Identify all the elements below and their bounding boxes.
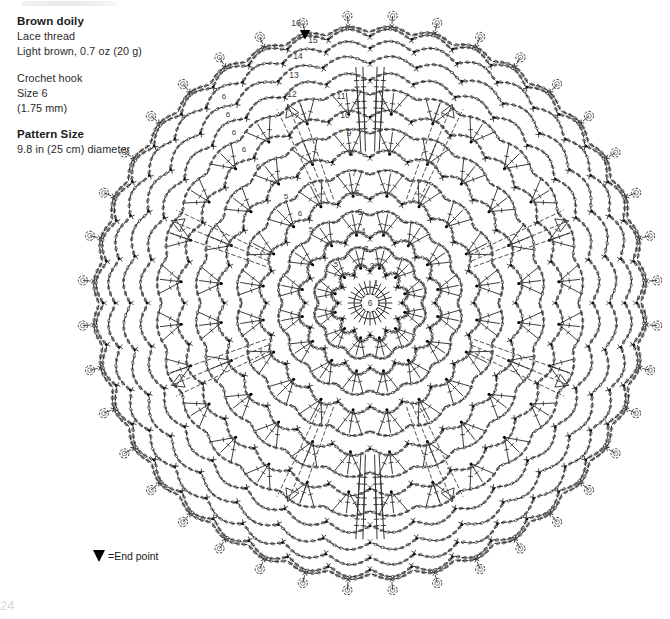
chain-link (307, 138, 312, 141)
chain-arc (212, 119, 244, 145)
chain-link (510, 200, 514, 205)
join-dot (517, 321, 520, 324)
chain-arc (470, 303, 481, 333)
picot-stem (83, 280, 91, 281)
chain-link (589, 196, 593, 201)
picot-stem (642, 236, 650, 238)
shell-crossbar (303, 257, 306, 261)
chain-arc (286, 220, 307, 242)
chain-link (199, 266, 202, 270)
join-dot (292, 378, 295, 381)
single-crochet-x (183, 423, 189, 429)
shell-crossbar (326, 289, 327, 294)
chain-link (428, 465, 433, 468)
chain-link (493, 388, 497, 393)
chain-arc (414, 81, 453, 96)
chain-link (363, 154, 367, 156)
join-dot (180, 280, 183, 283)
join-dot (475, 285, 478, 288)
chain-link (307, 182, 312, 186)
chain-link (488, 362, 492, 367)
join-dot (385, 195, 388, 198)
shell-crossbar (407, 372, 412, 373)
shell-crossbar (360, 347, 365, 348)
chain-link (210, 228, 214, 233)
chain-arc (287, 510, 326, 525)
chain-link (423, 375, 428, 379)
join-dot (403, 311, 406, 314)
chain-link (249, 240, 253, 245)
chain-arc (340, 403, 370, 414)
chain-arc (496, 461, 528, 487)
single-crochet-x (551, 423, 557, 429)
shell-crossbar (178, 241, 179, 246)
chain-link (564, 155, 568, 160)
dc-crossbar (363, 287, 368, 288)
chain-link (158, 175, 162, 180)
chain-link (251, 399, 255, 403)
chain-link (438, 306, 441, 310)
join-dot (445, 225, 448, 228)
picot-stem (583, 485, 589, 490)
chain-link (455, 328, 458, 332)
single-crochet-x (511, 415, 517, 421)
chain-arc (608, 182, 625, 218)
round-label: 10 (340, 110, 350, 120)
chain-link (290, 176, 295, 180)
chain-link (413, 354, 417, 358)
chain-link (430, 332, 434, 337)
shell-crossbar (516, 437, 517, 442)
join-dot (355, 234, 358, 237)
chain-link (227, 344, 230, 348)
chain-link (463, 396, 467, 400)
picot-ring (433, 578, 442, 587)
chain-arc (540, 133, 568, 167)
single-crochet-x (211, 515, 217, 521)
chain-link (221, 306, 223, 310)
chain-link (218, 327, 221, 331)
shell-crossbar (265, 242, 269, 245)
round-label-layer: 12345678910111213141516654565666666 (222, 18, 379, 291)
shell-crossbar (471, 361, 475, 364)
chain-arc (243, 201, 265, 230)
shell-crossbar (412, 236, 416, 239)
picot-ring (215, 53, 224, 62)
single-crochet-x (173, 463, 179, 469)
chain-link (243, 379, 247, 384)
single-crochet-x (252, 444, 258, 450)
join-dot (382, 369, 385, 372)
shell-crossbar (352, 225, 357, 226)
picot-inner (613, 451, 618, 456)
shell-crossbar (439, 340, 440, 345)
chain-link (572, 430, 576, 435)
dc-post (363, 67, 364, 108)
join-dot (330, 359, 333, 362)
shell-crossbar (514, 369, 518, 372)
picot-stem (104, 193, 111, 196)
join-dot (250, 393, 253, 396)
shell-crossbar (178, 360, 179, 365)
chain-link (395, 215, 399, 218)
shell-crossbar (347, 143, 352, 144)
chain-link (440, 143, 445, 147)
join-dot (311, 263, 314, 266)
join-dot (407, 244, 410, 247)
round-label: 16 (291, 18, 301, 28)
chain-link (516, 296, 518, 300)
chain-link (302, 322, 305, 326)
chain-link (469, 193, 473, 197)
single-crochet-x (204, 494, 210, 500)
chain-link (401, 158, 405, 161)
shell-crossbar (521, 245, 522, 250)
shell-crossbar (210, 322, 211, 327)
chain-link (186, 137, 190, 141)
chain-link (512, 334, 515, 338)
picot-stem (435, 575, 437, 583)
chain-link (267, 409, 271, 413)
chain-link (204, 483, 208, 487)
shell-crossbar (301, 261, 302, 266)
join-dot (390, 113, 393, 116)
chain-link (327, 540, 331, 543)
shell-crossbar (210, 280, 211, 285)
shell-crossbar (301, 447, 304, 451)
